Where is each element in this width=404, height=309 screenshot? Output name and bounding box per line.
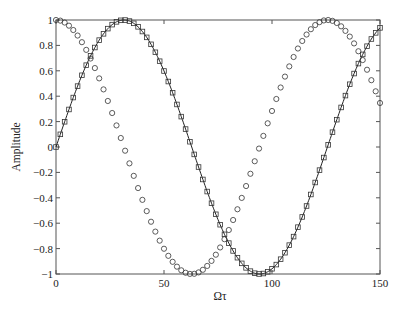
y-tick-label: −0.8 (33, 243, 53, 255)
amplitude-chart: 050100150 −1−0.8−0.6−0.4−0.200.20.40.60.… (0, 0, 404, 309)
circle-marker (343, 28, 348, 33)
data-markers (53, 17, 382, 276)
circle-marker (110, 110, 115, 115)
y-tick-label: 0 (48, 141, 54, 153)
circle-marker (157, 238, 162, 243)
circle-marker (235, 207, 240, 212)
circle-marker (166, 253, 171, 258)
circle-marker (174, 264, 179, 269)
y-tick-label: 0.8 (39, 39, 53, 51)
circle-marker (118, 135, 123, 140)
sine-line-series (56, 20, 380, 274)
circle-marker (123, 148, 128, 153)
circle-marker (347, 34, 352, 39)
x-axis-label: Ωτ (213, 290, 227, 302)
circle-marker (308, 27, 313, 32)
circle-marker (239, 195, 244, 200)
circle-marker (170, 259, 175, 264)
circle-marker (248, 171, 253, 176)
x-tick-label: 100 (264, 277, 281, 289)
circle-marker (131, 173, 136, 178)
circle-marker (373, 89, 378, 94)
plot-frame (56, 20, 380, 274)
circle-marker (295, 46, 300, 51)
circle-marker (135, 185, 140, 190)
circle-marker (148, 219, 153, 224)
x-tick-label: 0 (53, 277, 59, 289)
y-axis-label: Amplitude (10, 122, 23, 171)
circle-marker (243, 183, 248, 188)
circle-marker (231, 217, 236, 222)
y-tick-label: −0.4 (33, 192, 53, 204)
circle-marker (265, 121, 270, 126)
y-tick-label: 1 (48, 14, 54, 26)
circle-marker (364, 67, 369, 72)
circle-marker (205, 263, 210, 268)
circle-marker (200, 267, 205, 272)
circle-marker (75, 33, 80, 38)
circle-marker (369, 78, 374, 83)
circle-marker (127, 161, 132, 166)
circle-marker (300, 38, 305, 43)
circle-marker (261, 133, 266, 138)
circle-marker (218, 245, 223, 250)
circle-marker (274, 96, 279, 101)
y-tick-label: 0.6 (39, 65, 53, 77)
circle-marker (287, 64, 292, 69)
circle-marker (291, 54, 296, 59)
circle-marker (269, 108, 274, 113)
circle-marker (71, 27, 76, 32)
circle-marker (282, 74, 287, 79)
x-tick-label: 150 (372, 277, 389, 289)
circle-marker (66, 23, 71, 28)
circle-marker (304, 32, 309, 37)
circle-marker (213, 252, 218, 257)
circle-marker (252, 159, 257, 164)
circle-marker (105, 98, 110, 103)
circle-marker (92, 65, 97, 70)
circle-marker (209, 258, 214, 263)
y-tick-label: −0.2 (33, 166, 53, 178)
circle-marker (339, 24, 344, 29)
sine-line (56, 20, 380, 274)
axes-box (56, 20, 380, 274)
y-tick-label: −0.6 (33, 217, 53, 229)
circle-marker (101, 87, 106, 92)
circle-marker (84, 47, 89, 52)
circle-marker (351, 41, 356, 46)
y-tick-label: 0.2 (39, 116, 53, 128)
circle-marker (114, 123, 119, 128)
circle-marker (79, 40, 84, 45)
circle-marker (153, 229, 158, 234)
circle-marker (140, 197, 145, 202)
x-axis-ticks: 050100150 (53, 20, 389, 289)
circle-marker (144, 209, 149, 214)
circle-marker (97, 76, 102, 81)
circle-marker (256, 146, 261, 151)
x-tick-label: 50 (159, 277, 171, 289)
circle-marker (161, 246, 166, 251)
y-tick-label: 0.4 (39, 90, 53, 102)
circle-marker (278, 85, 283, 90)
y-tick-label: −1 (41, 268, 53, 280)
